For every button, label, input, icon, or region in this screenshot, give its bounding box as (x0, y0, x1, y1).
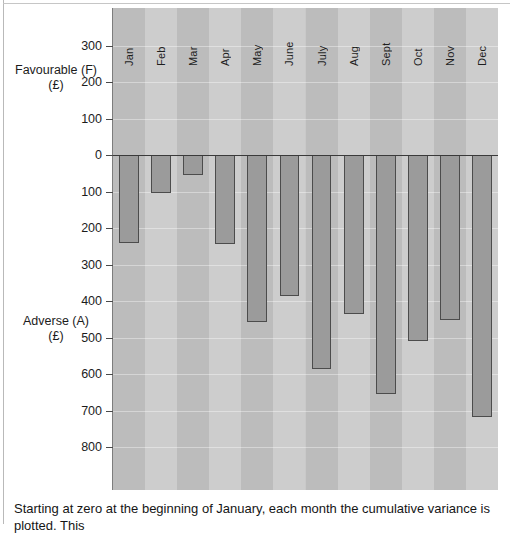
zero-axis-line (113, 155, 498, 156)
y-axis-tick-label-wrap: 300 (62, 40, 102, 52)
y-axis-tick (106, 301, 113, 302)
y-axis-tick-label: 300 (66, 40, 102, 52)
y-axis-tick-label-wrap: 600 (62, 368, 102, 380)
y-axis-tick (106, 411, 113, 412)
y-axis-tick-label-wrap: 500 (62, 332, 102, 344)
bar-july (312, 155, 332, 369)
bar-jan (119, 155, 139, 243)
y-axis-tick (106, 155, 113, 156)
month-label-sept: Sept (379, 20, 393, 66)
y-axis-tick-label: 800 (66, 441, 102, 453)
bar-june (280, 155, 300, 296)
y-axis-tick-label: 300 (66, 259, 102, 271)
y-axis-tick-label: 200 (66, 76, 102, 88)
month-label-aug: Aug (347, 20, 361, 66)
bar-mar (183, 155, 203, 175)
month-label-apr: Apr (218, 20, 232, 66)
y-axis-tick-label-wrap: 100 (62, 113, 102, 125)
y-axis-tick-label-wrap: 0 (62, 149, 102, 161)
month-label-july: July (315, 20, 329, 66)
month-label-jan: Jan (122, 20, 136, 66)
bar-feb (151, 155, 171, 193)
y-axis-tick-label-wrap: 200 (62, 76, 102, 88)
y-axis-tick-label: 500 (66, 332, 102, 344)
plot-band-apr (209, 8, 241, 490)
y-axis-tick (106, 265, 113, 266)
bar-sept (376, 155, 396, 394)
y-axis-tick (106, 374, 113, 375)
bar-nov (440, 155, 460, 320)
y-axis-tick-label-wrap: 700 (62, 405, 102, 417)
bar-oct (408, 155, 428, 341)
y-axis-tick (106, 338, 113, 339)
y-axis-tick-label-wrap: 100 (62, 186, 102, 198)
y-axis-tick (106, 82, 113, 83)
y-axis-tick-label: 100 (66, 186, 102, 198)
plot-band-feb (145, 8, 177, 490)
gridline (113, 447, 498, 448)
y-axis-tick (106, 119, 113, 120)
gridline (113, 411, 498, 412)
bar-apr (215, 155, 235, 244)
bar-aug (344, 155, 364, 314)
axis-caption-adverse-main: Adverse (A) (23, 314, 89, 328)
y-axis-tick (106, 46, 113, 47)
month-label-mar: Mar (186, 20, 200, 66)
chart-plot-area: JanFebMarAprMayJuneJulyAugSeptOctNovDec (113, 8, 498, 490)
y-axis-tick-label-wrap: 400 (62, 295, 102, 307)
month-label-june: June (282, 20, 296, 66)
y-axis-tick-label: 600 (66, 368, 102, 380)
plot-band-jan (113, 8, 145, 490)
y-axis-tick-label-wrap: 200 (62, 222, 102, 234)
y-axis-tick (106, 192, 113, 193)
gridline (113, 82, 498, 83)
page-border-top (3, 3, 510, 4)
gridline (113, 46, 498, 47)
bar-dec (472, 155, 492, 417)
bar-may (247, 155, 267, 322)
month-label-oct: Oct (411, 20, 425, 66)
gridline (113, 119, 498, 120)
y-axis-tick-label: 0 (66, 149, 102, 161)
month-label-dec: Dec (475, 20, 489, 66)
y-axis-tick (106, 228, 113, 229)
y-axis-tick-label: 100 (66, 113, 102, 125)
y-axis-tick-label: 200 (66, 222, 102, 234)
gridline (113, 374, 498, 375)
month-label-nov: Nov (443, 20, 457, 66)
y-axis-tick-label-wrap: 300 (62, 259, 102, 271)
y-axis-tick-label-wrap: 800 (62, 441, 102, 453)
y-axis-tick-label: 400 (66, 295, 102, 307)
y-axis-tick-label: 700 (66, 405, 102, 417)
month-label-feb: Feb (154, 20, 168, 66)
month-label-may: May (250, 20, 264, 66)
gridline (113, 338, 498, 339)
figure-caption: Starting at zero at the beginning of Jan… (14, 500, 506, 534)
y-axis-tick (106, 447, 113, 448)
plot-band-mar (177, 8, 209, 490)
